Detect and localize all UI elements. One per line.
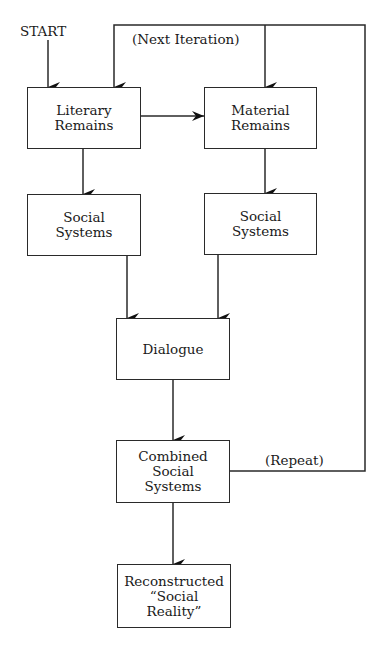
node-label: Social Systems (56, 210, 113, 240)
node-reconstructed-social-reality: Reconstructed “Social Reality” (117, 564, 231, 628)
node-label: Social Systems (232, 209, 289, 239)
node-label: Literary Remains (55, 103, 114, 133)
node-label: Combined Social Systems (138, 449, 208, 494)
repeat-label: (Repeat) (265, 452, 324, 468)
node-social-systems-left: Social Systems (27, 194, 141, 256)
node-literary-remains: Literary Remains (27, 87, 141, 149)
node-social-systems-right: Social Systems (204, 193, 317, 255)
node-material-remains: Material Remains (204, 87, 317, 149)
node-dialogue: Dialogue (116, 318, 230, 380)
node-label: Reconstructed “Social Reality” (124, 574, 224, 619)
next-iteration-label: (Next Iteration) (132, 31, 239, 47)
node-label: Dialogue (143, 342, 204, 357)
node-combined-social-systems: Combined Social Systems (116, 440, 230, 503)
start-label: START (20, 23, 66, 39)
node-label: Material Remains (231, 103, 290, 133)
